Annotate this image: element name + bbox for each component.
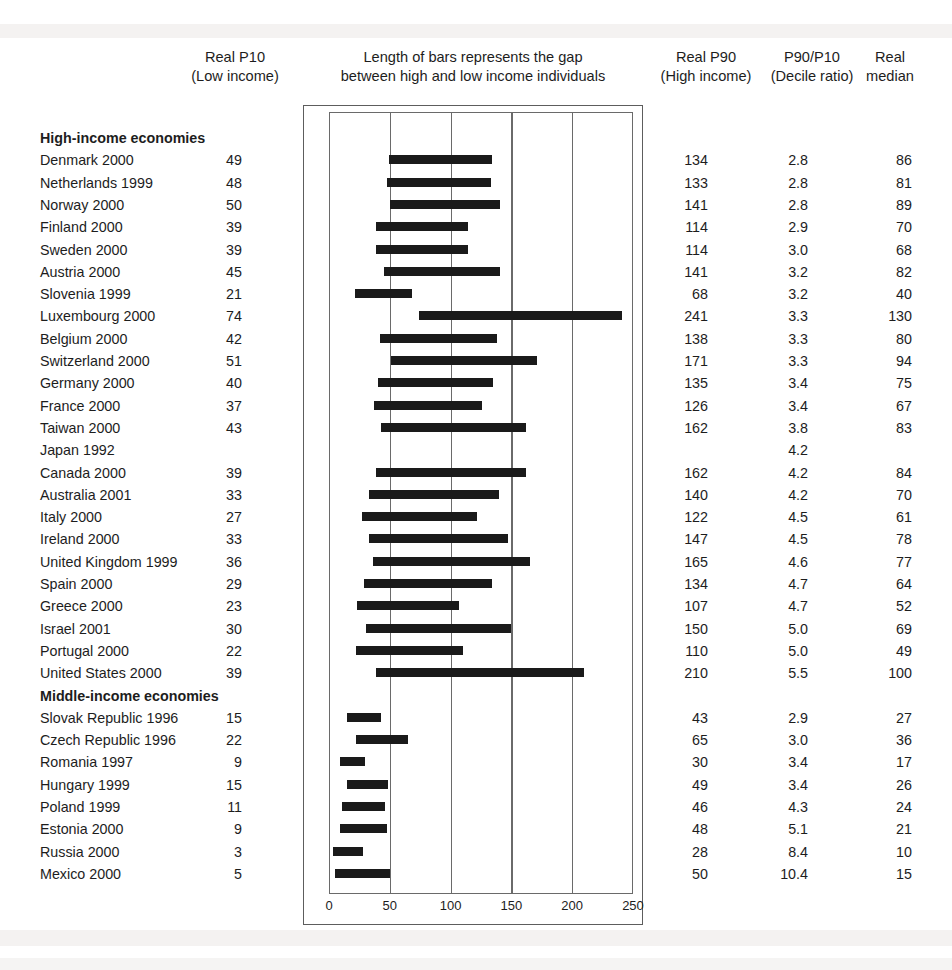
table-row[interactable]: Slovenia 199921683.240 xyxy=(0,283,952,305)
row-p90-value: 68 xyxy=(660,283,708,305)
row-p90-value: 241 xyxy=(660,305,708,327)
row-median-value: 94 xyxy=(868,350,912,372)
row-median-value: 10 xyxy=(868,841,912,863)
table-row[interactable]: Japan 19924.2 xyxy=(0,439,952,461)
row-p10-value: 51 xyxy=(196,350,242,372)
row-decile-ratio-value: 3.8 xyxy=(760,417,808,439)
table-row[interactable]: Russia 20003288.410 xyxy=(0,841,952,863)
row-median-value: 78 xyxy=(868,528,912,550)
row-p10-value: 50 xyxy=(196,194,242,216)
row-decile-ratio-value: 5.0 xyxy=(760,618,808,640)
row-p10-value: 39 xyxy=(196,216,242,238)
row-median-value: 89 xyxy=(868,194,912,216)
row-decile-ratio-value: 4.2 xyxy=(760,439,808,461)
row-p10-value: 43 xyxy=(196,417,242,439)
row-p90-value: 114 xyxy=(660,239,708,261)
row-country-label: Slovak Republic 1996 xyxy=(40,707,178,729)
row-p10-value: 39 xyxy=(196,462,242,484)
table-row[interactable]: Austria 2000451413.282 xyxy=(0,261,952,283)
row-country-label: Czech Republic 1996 xyxy=(40,729,176,751)
row-p90-value: 49 xyxy=(660,774,708,796)
table-row[interactable]: Greece 2000231074.752 xyxy=(0,595,952,617)
table-row[interactable]: Hungary 199915493.426 xyxy=(0,774,952,796)
row-median-value: 130 xyxy=(868,305,912,327)
row-p90-value: 28 xyxy=(660,841,708,863)
table-row[interactable]: Mexico 200055010.415 xyxy=(0,863,952,885)
row-p90-value: 135 xyxy=(660,372,708,394)
table-row[interactable]: Slovak Republic 199615432.927 xyxy=(0,707,952,729)
row-p90-value: 30 xyxy=(660,751,708,773)
group-heading-label: High-income economies xyxy=(40,127,205,149)
row-country-label: Luxembourg 2000 xyxy=(40,305,155,327)
row-country-label: Ireland 2000 xyxy=(40,528,120,550)
table-row[interactable]: Taiwan 2000431623.883 xyxy=(0,417,952,439)
row-decile-ratio-value: 4.5 xyxy=(760,528,808,550)
row-p90-value: 171 xyxy=(660,350,708,372)
row-p90-value: 138 xyxy=(660,328,708,350)
table-row[interactable]: Ireland 2000331474.578 xyxy=(0,528,952,550)
row-p90-value: 134 xyxy=(660,573,708,595)
row-p90-value: 147 xyxy=(660,528,708,550)
table-row[interactable]: Sweden 2000391143.068 xyxy=(0,239,952,261)
table-row[interactable]: Israel 2001301505.069 xyxy=(0,618,952,640)
row-p10-value: 42 xyxy=(196,328,242,350)
row-decile-ratio-value: 4.7 xyxy=(760,595,808,617)
row-p10-value: 29 xyxy=(196,573,242,595)
row-p10-value: 37 xyxy=(196,395,242,417)
row-decile-ratio-value: 2.8 xyxy=(760,149,808,171)
table-row[interactable]: Romania 19979303.417 xyxy=(0,751,952,773)
table-row[interactable]: Portugal 2000221105.049 xyxy=(0,640,952,662)
row-decile-ratio-value: 10.4 xyxy=(760,863,808,885)
table-row[interactable]: France 2000371263.467 xyxy=(0,395,952,417)
table-row[interactable]: Czech Republic 199622653.036 xyxy=(0,729,952,751)
table-row[interactable]: Italy 2000271224.561 xyxy=(0,506,952,528)
row-median-value: 64 xyxy=(868,573,912,595)
row-median-value: 67 xyxy=(868,395,912,417)
row-decile-ratio-value: 3.3 xyxy=(760,350,808,372)
table-row[interactable]: Netherlands 1999481332.881 xyxy=(0,172,952,194)
table-row[interactable]: Luxembourg 2000742413.3130 xyxy=(0,305,952,327)
row-country-label: Portugal 2000 xyxy=(40,640,129,662)
row-p10-value: 3 xyxy=(196,841,242,863)
table-row[interactable]: Germany 2000401353.475 xyxy=(0,372,952,394)
row-p10-value: 39 xyxy=(196,239,242,261)
table-row[interactable]: Poland 199911464.324 xyxy=(0,796,952,818)
row-p90-value: 43 xyxy=(660,707,708,729)
table-row[interactable]: Finland 2000391142.970 xyxy=(0,216,952,238)
table-row[interactable]: Denmark 2000491342.886 xyxy=(0,149,952,171)
row-country-label: Netherlands 1999 xyxy=(40,172,153,194)
row-p10-value: 11 xyxy=(196,796,242,818)
row-p10-value: 21 xyxy=(196,283,242,305)
table-row[interactable]: Belgium 2000421383.380 xyxy=(0,328,952,350)
row-p90-value: 210 xyxy=(660,662,708,684)
row-median-value: 70 xyxy=(868,216,912,238)
row-median-value: 75 xyxy=(868,372,912,394)
table-row[interactable]: United Kingdom 1999361654.677 xyxy=(0,551,952,573)
row-median-value: 80 xyxy=(868,328,912,350)
row-p10-value: 74 xyxy=(196,305,242,327)
table-row[interactable]: United States 2000392105.5100 xyxy=(0,662,952,684)
row-country-label: Israel 2001 xyxy=(40,618,111,640)
row-country-label: Mexico 2000 xyxy=(40,863,121,885)
row-median-value: 49 xyxy=(868,640,912,662)
row-p10-value: 36 xyxy=(196,551,242,573)
row-decile-ratio-value: 3.2 xyxy=(760,261,808,283)
row-country-label: Russia 2000 xyxy=(40,841,119,863)
table-row[interactable]: Australia 2001331404.270 xyxy=(0,484,952,506)
row-decile-ratio-value: 3.4 xyxy=(760,395,808,417)
row-p10-value: 9 xyxy=(196,818,242,840)
table-row[interactable]: Switzerland 2000511713.394 xyxy=(0,350,952,372)
row-p10-value: 49 xyxy=(196,149,242,171)
row-decile-ratio-value: 3.3 xyxy=(760,305,808,327)
row-median-value: 70 xyxy=(868,484,912,506)
table-row[interactable]: Canada 2000391624.284 xyxy=(0,462,952,484)
row-decile-ratio-value: 2.9 xyxy=(760,707,808,729)
row-p10-value: 9 xyxy=(196,751,242,773)
table-row[interactable]: Estonia 20009485.121 xyxy=(0,818,952,840)
table-row[interactable]: Norway 2000501412.889 xyxy=(0,194,952,216)
row-median-value: 84 xyxy=(868,462,912,484)
group-heading-row: High-income economies xyxy=(0,127,952,149)
row-decile-ratio-value: 2.8 xyxy=(760,194,808,216)
row-country-label: Spain 2000 xyxy=(40,573,112,595)
table-row[interactable]: Spain 2000291344.764 xyxy=(0,573,952,595)
